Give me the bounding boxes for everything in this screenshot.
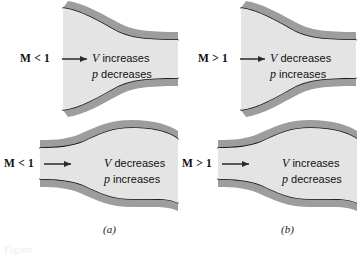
pressure-change-text: decreases (291, 173, 342, 185)
velocity-change-text: increases (292, 157, 339, 169)
pressure-change-text: increases (113, 173, 160, 185)
column-label-a: (a) (103, 224, 116, 235)
column-label-b: (b) (281, 224, 294, 235)
velocity-change-text: decreases (114, 157, 165, 169)
annotation-line1-top-left: V increases (92, 52, 149, 64)
figure-caption-stub: Figure (4, 243, 33, 255)
annotation-line1-top-right: V decreases (270, 52, 331, 64)
annotation-line2-top-right: p increases (270, 68, 326, 80)
mach-label-top-left: M < 1 (20, 53, 50, 65)
annotation-line2-top-left: p decreases (92, 68, 152, 80)
annotation-line2-bottom-right: p decreases (282, 173, 342, 185)
annotation-line2-bottom-left: p increases (104, 173, 160, 185)
velocity-change-text: increases (102, 52, 149, 64)
mach-label-bottom-left: M < 1 (4, 158, 34, 170)
pressure-change-text: decreases (101, 68, 152, 80)
pressure-change-text: increases (279, 68, 326, 80)
mach-label-bottom-right: M > 1 (182, 158, 212, 170)
annotation-line1-bottom-left: V decreases (104, 157, 165, 169)
mach-label-top-right: M > 1 (198, 53, 228, 65)
velocity-change-text: decreases (280, 52, 331, 64)
annotation-line1-bottom-right: V increases (282, 157, 339, 169)
